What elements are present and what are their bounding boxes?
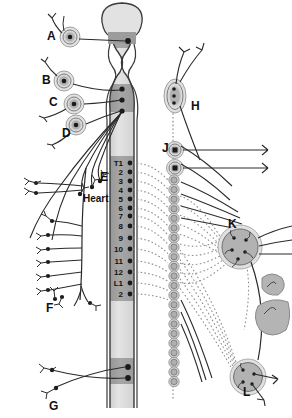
root-dot-B bbox=[119, 86, 124, 91]
label-J: J bbox=[162, 141, 169, 155]
chain-ganglion-0 bbox=[169, 175, 179, 185]
white-ramus-12 bbox=[133, 283, 168, 290]
vertebral-label-13: 2 bbox=[119, 290, 124, 299]
chain-ganglion-21 bbox=[169, 376, 179, 386]
label-G: G bbox=[49, 399, 58, 413]
level-dot-5 bbox=[128, 206, 133, 211]
chain-ganglion-5 bbox=[169, 223, 179, 233]
label-E: E bbox=[100, 170, 108, 184]
splanchnic-dotted-fibers bbox=[180, 196, 249, 380]
organ-small bbox=[262, 274, 284, 295]
vertebral-label-3: 4 bbox=[119, 186, 124, 195]
white-ramus-13 bbox=[133, 294, 168, 300]
chain-ganglion-9 bbox=[169, 261, 179, 271]
level-dot-3 bbox=[128, 188, 133, 193]
ganglion-J bbox=[167, 142, 269, 159]
ganglion-stellate bbox=[167, 160, 269, 177]
root-dot-A bbox=[125, 38, 131, 44]
chain-ganglion-1 bbox=[169, 184, 179, 194]
level-dot-12 bbox=[128, 281, 133, 286]
root-dot-G1 bbox=[125, 364, 131, 370]
level-dot-13 bbox=[128, 292, 133, 297]
label-B: B bbox=[42, 73, 51, 87]
vertebral-label-6: 7 bbox=[119, 212, 124, 221]
white-ramus-10 bbox=[133, 261, 168, 272]
white-ramus-0 bbox=[133, 163, 168, 180]
organ-large bbox=[255, 300, 289, 335]
chain-ganglion-12 bbox=[169, 290, 179, 300]
level-dot-10 bbox=[128, 259, 133, 264]
splanchnic-fiber-l-0 bbox=[180, 250, 238, 368]
vertebral-label-10: 11 bbox=[115, 257, 124, 266]
vertebral-label-9: 10 bbox=[114, 245, 123, 254]
label-layer: ABCDEFGHJKLHeart bbox=[42, 29, 250, 413]
chain-ganglion-6 bbox=[169, 232, 179, 242]
chain-ganglion-20 bbox=[169, 367, 179, 377]
vertebral-label-11: 12 bbox=[114, 268, 123, 277]
splanchnic-fiber-l-4 bbox=[180, 288, 238, 380]
chain-ganglion-10 bbox=[169, 271, 179, 281]
level-dot-7 bbox=[128, 224, 133, 229]
white-ramus-8 bbox=[133, 238, 168, 254]
label-C: C bbox=[49, 95, 58, 109]
root-dot-G2 bbox=[125, 375, 131, 381]
level-dot-1 bbox=[128, 170, 133, 175]
white-rami-dotted bbox=[133, 163, 168, 300]
white-ramus-11 bbox=[133, 272, 168, 281]
vertebral-label-4: 5 bbox=[119, 195, 124, 204]
label-D: D bbox=[62, 126, 71, 140]
label-L: L bbox=[243, 385, 250, 399]
vertebral-label-7: 8 bbox=[119, 222, 124, 231]
splanchnic-fiber-l-3 bbox=[180, 279, 238, 377]
organ-label-heart: Heart bbox=[83, 193, 109, 204]
chain-ganglion-7 bbox=[169, 242, 179, 252]
label-A: A bbox=[47, 29, 56, 43]
chain-ganglion-17 bbox=[169, 338, 179, 348]
level-dot-0 bbox=[128, 161, 133, 166]
vertebral-label-1: 2 bbox=[119, 168, 124, 177]
k-to-l-dotted bbox=[244, 262, 249, 330]
label-H: H bbox=[191, 99, 200, 113]
chain-ganglion-2 bbox=[169, 194, 179, 204]
ganglion-K bbox=[218, 225, 292, 269]
vertebral-label-12: L1 bbox=[114, 279, 124, 288]
chain-ganglion-11 bbox=[169, 280, 179, 290]
label-F: F bbox=[46, 301, 53, 315]
splanchnic-fiber-k-8 bbox=[180, 256, 228, 274]
vertebral-label-8: 9 bbox=[119, 234, 124, 243]
vertebral-label-2: 3 bbox=[119, 177, 124, 186]
chain-ganglion-15 bbox=[169, 319, 179, 329]
chain-ganglion-16 bbox=[169, 328, 179, 338]
chain-ganglion-3 bbox=[169, 204, 179, 214]
level-dot-8 bbox=[128, 236, 133, 241]
chain-ganglion-8 bbox=[169, 252, 179, 262]
level-dot-4 bbox=[128, 197, 133, 202]
chain-ganglion-13 bbox=[169, 300, 179, 310]
chain-ganglion-4 bbox=[169, 213, 179, 223]
white-ramus-5 bbox=[133, 208, 168, 226]
white-ramus-2 bbox=[133, 181, 168, 198]
ganglion-L bbox=[230, 359, 278, 406]
vertebral-label-0: T1 bbox=[114, 159, 124, 168]
white-ramus-1 bbox=[133, 172, 168, 189]
white-ramus-6 bbox=[133, 216, 168, 235]
level-dot-2 bbox=[128, 179, 133, 184]
chain-ganglia-beads bbox=[169, 175, 179, 387]
chain-ganglion-19 bbox=[169, 357, 179, 367]
level-dot-6 bbox=[128, 214, 133, 219]
sacral-terminals bbox=[39, 364, 58, 399]
level-dot-11 bbox=[128, 270, 133, 275]
label-K: K bbox=[228, 217, 237, 231]
chain-ganglion-18 bbox=[169, 348, 179, 358]
level-dot-9 bbox=[128, 247, 133, 252]
figure-canvas: ABCDEFGHJKLHeart T123456789101112L12 bbox=[0, 0, 292, 418]
anatomy-diagram: ABCDEFGHJKLHeart T123456789101112L12 bbox=[0, 0, 292, 418]
chain-ganglion-14 bbox=[169, 309, 179, 319]
white-ramus-7 bbox=[133, 226, 168, 244]
